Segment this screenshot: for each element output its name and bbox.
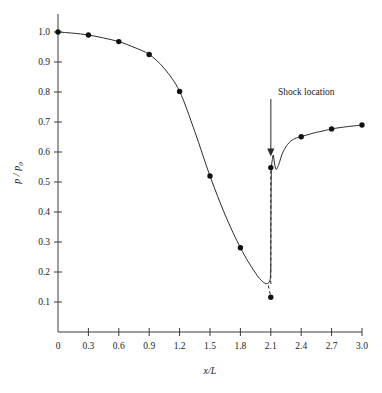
y-axis-title-text: p / p: [11, 166, 22, 185]
y-tick-label: 0.2: [38, 267, 50, 277]
y-axis-title-subscript: 0: [17, 162, 25, 166]
x-tick-label: 2.4: [295, 341, 307, 351]
x-tick-label: 1.8: [234, 341, 246, 351]
y-tick-label: 0.4: [38, 207, 50, 217]
x-tick-label: 2.7: [326, 341, 338, 351]
data-point-marker: [329, 126, 334, 131]
x-tick-label: 2.1: [265, 341, 277, 351]
shock-location-label: Shock location: [278, 87, 335, 97]
y-tick-label: 0.6: [38, 147, 50, 157]
data-point-marker: [207, 173, 212, 178]
x-tick-label: 0.6: [113, 341, 125, 351]
data-point-marker: [116, 39, 121, 44]
data-point-marker: [86, 32, 91, 37]
y-tick-label: 0.5: [38, 177, 50, 187]
data-point-marker: [268, 165, 273, 170]
data-point-marker: [238, 245, 243, 250]
x-tick-label: 0.3: [82, 341, 94, 351]
y-tick-label: 0.7: [38, 117, 50, 127]
x-tick-label: 0: [56, 341, 61, 351]
data-point-marker: [55, 29, 60, 34]
x-tick-label: 3.0: [356, 341, 368, 351]
chart-figure: 0.10.20.30.40.50.60.70.80.91.0 00.30.60.…: [0, 0, 382, 393]
chart-background: [0, 0, 382, 393]
data-point-marker: [268, 295, 273, 300]
y-tick-label: 0.1: [38, 297, 50, 307]
data-point-marker: [147, 52, 152, 57]
x-axis-title: x/L: [203, 365, 217, 376]
x-tick-label: 1.2: [174, 341, 186, 351]
x-tick-label: 0.9: [143, 341, 155, 351]
y-tick-label: 0.9: [38, 57, 50, 67]
y-tick-label: 0.8: [38, 87, 50, 97]
data-point-marker: [177, 89, 182, 94]
x-tick-label: 1.5: [204, 341, 216, 351]
pressure-ratio-line-chart: 0.10.20.30.40.50.60.70.80.91.0 00.30.60.…: [0, 0, 382, 393]
data-point-marker: [359, 122, 364, 127]
y-tick-label: 0.3: [38, 237, 50, 247]
y-tick-label: 1.0: [38, 27, 50, 37]
data-point-marker: [299, 134, 304, 139]
